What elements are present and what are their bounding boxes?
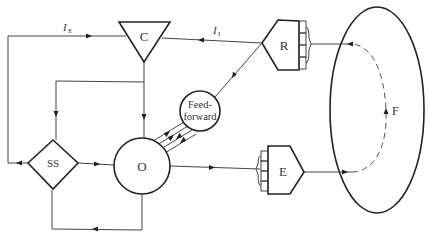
- arrow-o-to-e: [209, 165, 215, 170]
- receptor-boxes-e: [256, 151, 268, 191]
- edge-r-to-c-ii: [162, 38, 262, 43]
- node-o: O: [114, 138, 170, 194]
- node-f-label: F: [392, 104, 399, 118]
- arrow-left-ii: [198, 38, 204, 43]
- arrow-c-to-ss: [54, 111, 59, 117]
- dashed-feedback-path: [352, 44, 386, 172]
- node-e: E: [256, 146, 304, 194]
- control-system-diagram: C R E SS O Feed: [0, 0, 429, 242]
- arrow-bottom-left: [92, 227, 98, 232]
- edge-ss-to-c-ie: [8, 36, 126, 163]
- arrow-right-ie: [86, 34, 92, 39]
- receptor-boxes-r: [299, 21, 311, 69]
- edge-label-ii: I I: [212, 24, 221, 38]
- arrow-e-to-f: [342, 170, 348, 175]
- node-ss-label: SS: [47, 157, 59, 169]
- arrow-f-to-r: [347, 42, 353, 47]
- arrow-ss-to-o: [94, 162, 100, 167]
- node-c-label: C: [140, 29, 149, 44]
- node-c: C: [119, 22, 170, 62]
- arrow-up-f: [384, 108, 389, 114]
- node-o-label: O: [137, 159, 146, 174]
- ie-sub: E: [68, 27, 72, 35]
- node-ff-label-2: forward: [183, 111, 217, 122]
- edge-o-to-ss-bottom: [52, 190, 142, 230]
- node-e-label: E: [279, 164, 287, 179]
- node-ss: SS: [28, 140, 78, 189]
- edge-c-to-ss: [56, 81, 144, 140]
- arrow-c-to-o: [142, 114, 147, 120]
- ii-sub: I: [218, 30, 221, 38]
- environment-ellipse: [330, 7, 424, 213]
- node-feedforward: Feed- forward: [180, 91, 220, 131]
- edge-r-to-ff: [215, 43, 262, 97]
- node-ff-label-1: Feed-: [188, 99, 212, 110]
- node-r-label: R: [280, 38, 289, 53]
- node-r: R: [262, 20, 311, 70]
- edge-label-ie: I E: [62, 21, 72, 35]
- arrow-left-ss: [16, 161, 22, 166]
